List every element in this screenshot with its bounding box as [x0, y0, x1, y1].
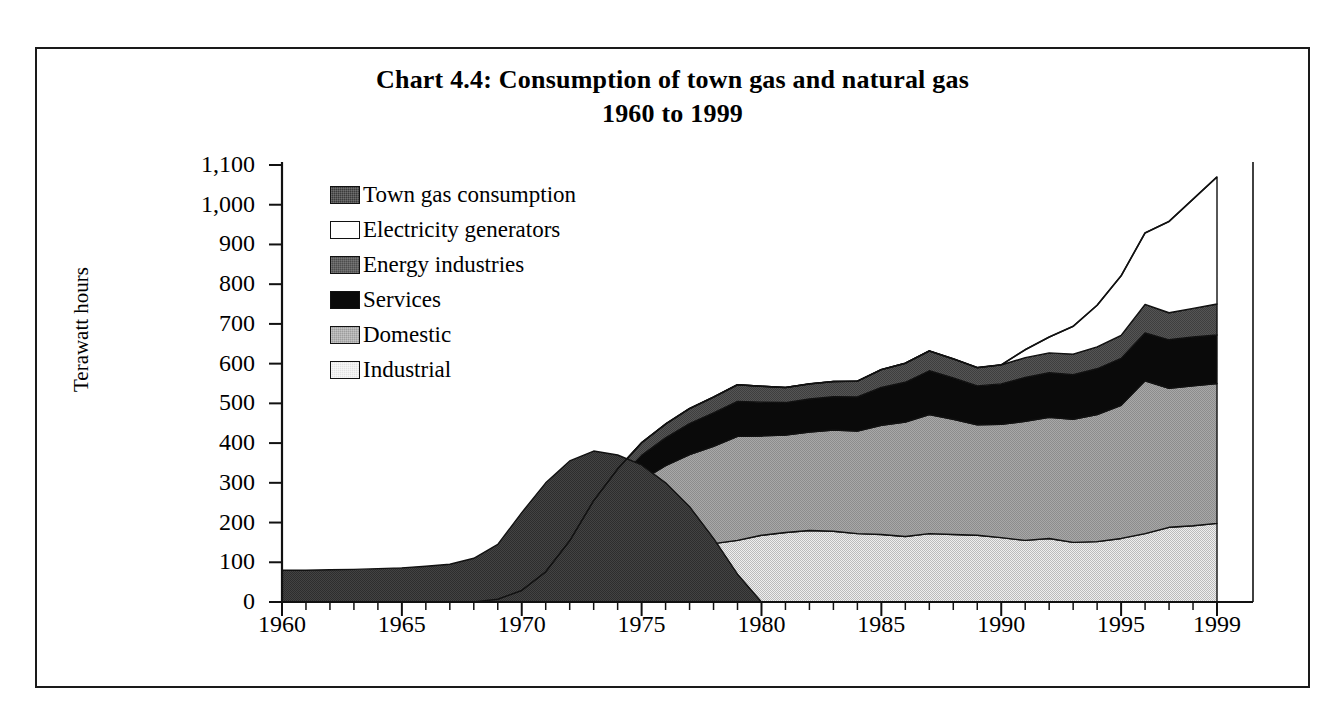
legend-item: Energy industries	[330, 247, 660, 282]
swatch-electricity-generators	[330, 221, 360, 239]
legend-item: Electricity generators	[330, 212, 660, 247]
chart-canvas	[37, 49, 1312, 690]
legend-item: Domestic	[330, 317, 660, 352]
swatch-town-gas	[330, 186, 360, 204]
chart-legend: Town gas consumptionElectricity generato…	[330, 177, 660, 387]
legend-item-label: Industrial	[363, 358, 451, 381]
legend-item-label: Energy industries	[363, 253, 524, 276]
chart-figure: Chart 4.4: Consumption of town gas and n…	[35, 47, 1310, 688]
swatch-industrial	[330, 361, 360, 379]
legend-item: Services	[330, 282, 660, 317]
legend-item-label: Services	[363, 288, 441, 311]
swatch-services	[330, 291, 360, 309]
plot-area: Terawatt hours 0100200300400500600700800…	[37, 49, 1312, 690]
legend-item-label: Town gas consumption	[363, 183, 576, 206]
legend-item: Town gas consumption	[330, 177, 660, 212]
legend-item-label: Electricity generators	[363, 218, 560, 241]
legend-item: Industrial	[330, 352, 660, 387]
swatch-domestic	[330, 326, 360, 344]
legend-item-label: Domestic	[363, 323, 451, 346]
swatch-energy-industries	[330, 256, 360, 274]
